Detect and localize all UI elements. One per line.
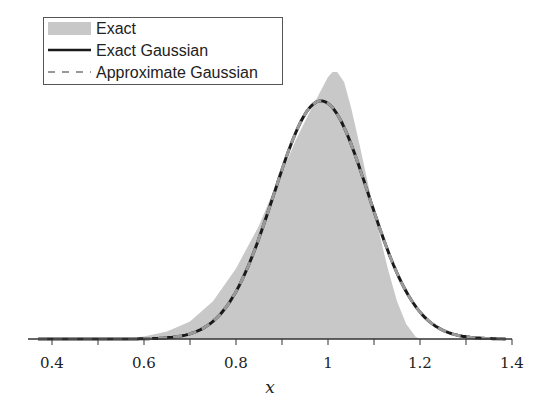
x-tick-label: 1 xyxy=(323,354,333,372)
x-tick-label: 0.6 xyxy=(132,354,156,372)
x-axis-tick-labels: 0.40.60.811.21.4 xyxy=(40,354,524,372)
legend-label-approximate-gaussian: Approximate Gaussian xyxy=(96,64,258,81)
plot-area xyxy=(29,72,512,339)
x-tick-label: 0.4 xyxy=(40,354,64,372)
legend: Exact Exact Gaussian Approximate Gaussia… xyxy=(44,18,283,85)
chart: 0.40.60.811.21.4 x Exact Exact Gaussian … xyxy=(0,0,554,412)
x-axis-label: x xyxy=(265,377,275,397)
x-tick-label: 0.8 xyxy=(224,354,248,372)
legend-label-exact: Exact xyxy=(96,20,137,37)
x-tick-label: 1.4 xyxy=(500,354,524,372)
legend-label-exact-gaussian: Exact Gaussian xyxy=(96,42,208,59)
legend-swatch-exact xyxy=(48,22,91,35)
x-tick-label: 1.2 xyxy=(408,354,432,372)
x-axis: 0.40.60.811.21.4 x xyxy=(28,339,524,397)
